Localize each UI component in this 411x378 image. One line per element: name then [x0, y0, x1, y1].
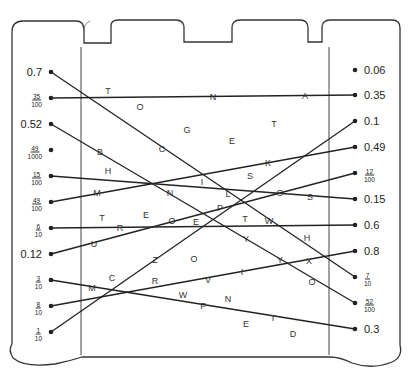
left-dot[interactable]	[49, 70, 54, 75]
left-value-label: 49100	[31, 193, 42, 212]
numerator: 6	[36, 223, 42, 231]
puzzle-letter: L	[225, 189, 230, 199]
right-dot[interactable]	[353, 249, 358, 254]
left-dot[interactable]	[49, 148, 54, 153]
left-value-label: 0.12	[21, 248, 42, 260]
numerator: 8	[36, 301, 42, 309]
right-dot[interactable]	[353, 223, 358, 228]
left-value-label: 491000	[28, 141, 42, 160]
fraction: 710	[364, 272, 371, 287]
right-value-label: 0.6	[364, 219, 379, 231]
connection-lines	[51, 72, 355, 332]
denominator: 10	[35, 231, 42, 238]
denominator: 1000	[28, 153, 42, 160]
denominator: 100	[31, 205, 42, 212]
decimal-fraction-matching-worksheet: 0.7351000.5249100015100491006100.1231081…	[0, 0, 411, 378]
denominator: 10	[364, 280, 371, 287]
right-value-label: 12100	[364, 164, 375, 183]
connection-line	[51, 95, 355, 98]
left-dot[interactable]	[49, 122, 54, 127]
puzzle-letter: F	[200, 301, 206, 311]
numerator: 49	[30, 145, 39, 153]
puzzle-letter: A	[302, 91, 308, 101]
left-value-label: 35100	[31, 89, 42, 108]
left-value-label: 310	[35, 271, 42, 290]
puzzle-letter: X	[306, 256, 312, 266]
right-dot[interactable]	[353, 301, 358, 306]
left-value-label: 810	[35, 297, 42, 316]
puzzle-letter: V	[205, 275, 211, 285]
right-dot[interactable]	[353, 327, 358, 332]
right-value-label: 0.15	[364, 193, 385, 205]
right-dot[interactable]	[353, 119, 358, 124]
puzzle-letter: N	[210, 92, 217, 102]
puzzle-letter: O	[308, 277, 315, 287]
numerator: 3	[36, 275, 42, 283]
denominator: 10	[35, 283, 42, 290]
right-dot[interactable]	[353, 197, 358, 202]
puzzle-letter: W	[265, 216, 274, 226]
puzzle-letter: Y	[277, 255, 283, 265]
puzzle-letter: T	[99, 213, 105, 223]
denominator: 100	[31, 101, 42, 108]
right-dot[interactable]	[353, 145, 358, 150]
puzzle-letter: H	[105, 166, 112, 176]
left-dot[interactable]	[49, 200, 54, 205]
puzzle-letter: T	[242, 214, 248, 224]
left-dot[interactable]	[49, 304, 54, 309]
puzzle-letter: O	[136, 102, 143, 112]
fraction: 491000	[28, 145, 42, 160]
puzzle-letter: O	[190, 254, 197, 264]
left-dot[interactable]	[49, 174, 54, 179]
numerator: 1	[36, 327, 42, 335]
puzzle-letter: I	[241, 267, 244, 277]
fraction: 12100	[364, 168, 375, 183]
puzzle-letter: N	[225, 294, 232, 304]
puzzle-letter: N	[167, 188, 174, 198]
right-value-label: 0.49	[364, 141, 385, 153]
left-dot[interactable]	[49, 330, 54, 335]
puzzle-letter: O	[276, 188, 283, 198]
puzzle-letter: B	[97, 147, 103, 157]
right-dot[interactable]	[353, 275, 358, 280]
right-value-label: 0.3	[364, 323, 379, 335]
left-dot[interactable]	[49, 252, 54, 257]
puzzle-letter: W	[179, 290, 188, 300]
numerator: 35	[32, 93, 41, 101]
right-value-label: 0.35	[364, 89, 385, 101]
numerator: 15	[32, 171, 41, 179]
puzzle-letter: E	[243, 319, 249, 329]
denominator: 100	[364, 306, 375, 313]
puzzle-letter: S	[307, 192, 313, 202]
right-dot[interactable]	[353, 93, 358, 98]
left-dot[interactable]	[49, 226, 54, 231]
fraction: 610	[35, 223, 42, 238]
right-value-label: 0.1	[364, 115, 379, 127]
fraction: 810	[35, 301, 42, 316]
puzzle-letter: Z	[152, 255, 158, 265]
denominator: 10	[35, 309, 42, 316]
puzzle-letter: P	[217, 203, 223, 213]
right-value-label: 710	[364, 268, 371, 287]
puzzle-letter: I	[201, 177, 204, 187]
puzzle-letter: R	[152, 276, 159, 286]
right-dot[interactable]	[353, 68, 358, 73]
left-dot[interactable]	[49, 96, 54, 101]
puzzle-letter: K	[265, 158, 271, 168]
right-value-label: 0.06	[364, 64, 385, 76]
puzzle-letter: R	[117, 223, 124, 233]
left-value-label: 0.7	[27, 66, 42, 78]
left-dot[interactable]	[49, 278, 54, 283]
puzzle-letter: E	[229, 136, 235, 146]
numerator: 49	[32, 197, 41, 205]
puzzle-letter: T	[271, 119, 277, 129]
fraction: 110	[35, 327, 42, 342]
puzzle-letter: M	[88, 283, 96, 293]
fraction: 35100	[31, 93, 42, 108]
numerator: 7	[365, 272, 371, 280]
puzzle-letter: T	[105, 86, 111, 96]
puzzle-letter: U	[91, 239, 98, 249]
right-value-label: 0.8	[364, 245, 379, 257]
left-value-label: 610	[35, 219, 42, 238]
right-dot[interactable]	[353, 171, 358, 176]
